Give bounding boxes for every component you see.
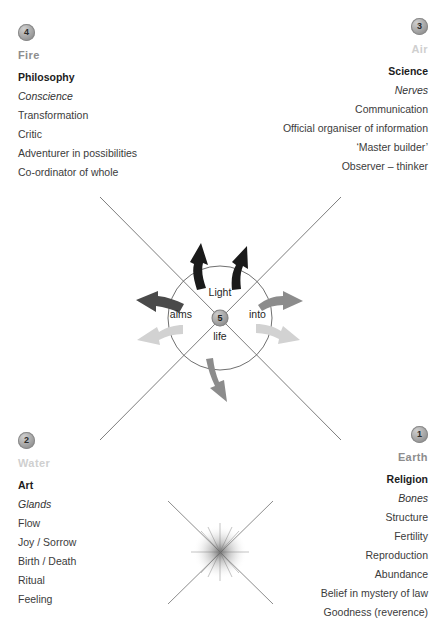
quadrant-heading: Art [18, 476, 76, 495]
arrow-top-right-up [232, 246, 248, 290]
quadrant-item: Feeling [18, 590, 76, 609]
quadrant-item: Communication [283, 100, 428, 119]
arrow-bottom-down [206, 358, 227, 402]
quadrant-bottom-right: 1EarthReligionBonesStructureFertilityRep… [321, 426, 428, 622]
center-badge-5: 5 [212, 310, 229, 327]
quadrant-top-right: 3AirScienceNervesCommunicationOfficial o… [283, 18, 428, 176]
arrow-top-left-up [190, 243, 208, 290]
quadrant-subheading: Conscience [18, 87, 137, 106]
quadrant-item: Co-ordinator of whole [18, 163, 137, 182]
quadrant-item: Adventurer in possibilities [18, 144, 137, 163]
quadrant-item: Critic [18, 125, 137, 144]
center-word-right: into [249, 308, 266, 320]
quadrant-subheading: Glands [18, 495, 76, 514]
badge-bottom-left: 2 [18, 432, 35, 449]
arrow-right-lower [256, 324, 300, 344]
quadrant-item: Structure [321, 508, 428, 527]
center-word-bottom: life [213, 330, 226, 342]
quadrant-item: Official organiser of information [283, 119, 428, 138]
quadrant-subheading: Nerves [283, 81, 428, 100]
center-word-left: aims [170, 308, 192, 320]
quadrant-item: Joy / Sorrow [18, 533, 76, 552]
quadrant-subheading: Bones [321, 489, 428, 508]
quadrant-item: Abundance [321, 565, 428, 584]
diagram-canvas: Light aims into life 5 4FirePhilosophyCo… [0, 0, 442, 628]
center-word-top: Light [209, 286, 232, 298]
quadrant-heading: Philosophy [18, 68, 137, 87]
quadrant-item: Flow [18, 514, 76, 533]
quadrant-item: Birth / Death [18, 552, 76, 571]
quadrant-item: Observer – thinker [283, 157, 428, 176]
badge-top-left: 4 [18, 24, 35, 41]
quadrant-item: Transformation [18, 106, 137, 125]
quadrant-bottom-left: 2WaterArtGlandsFlowJoy / SorrowBirth / D… [18, 432, 76, 609]
quadrant-item: Goodness (reverence) [321, 603, 428, 622]
element-name-air: Air [283, 40, 428, 59]
badge-top-right: 3 [411, 18, 428, 35]
quadrant-item: ‘Master builder’ [283, 138, 428, 157]
quadrant-top-left: 4FirePhilosophyConscienceTransformationC… [18, 24, 137, 182]
element-name-earth: Earth [321, 448, 428, 467]
arrow-left-lower [137, 325, 183, 345]
quadrant-heading: Science [283, 62, 428, 81]
element-name-fire: Fire [18, 46, 137, 65]
element-name-water: Water [18, 454, 76, 473]
quadrant-item: Ritual [18, 571, 76, 590]
badge-bottom-right: 1 [411, 426, 428, 443]
quadrant-item: Fertility [321, 527, 428, 546]
quadrant-item: Reproduction [321, 546, 428, 565]
quadrant-item: Belief in mystery of law [321, 584, 428, 603]
quadrant-heading: Religion [321, 470, 428, 489]
radial-starburst [168, 501, 273, 604]
